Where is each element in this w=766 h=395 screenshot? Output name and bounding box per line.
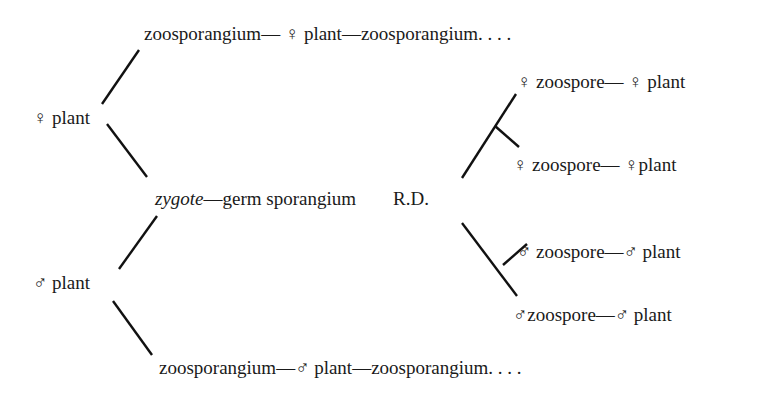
zygote-row: zygote—germ sporangium bbox=[155, 189, 356, 208]
line-female-to-zygote bbox=[107, 124, 147, 177]
female-plant-label: ♀ plant bbox=[33, 108, 90, 127]
connector-lines bbox=[0, 0, 766, 395]
product-male-zoospore-1: ♂ zoospore—♂ plant bbox=[517, 242, 681, 261]
germ-sporangium-label: —germ sporangium bbox=[204, 188, 357, 209]
product-female-zoospore-1: ♀ zoospore— ♀ plant bbox=[517, 72, 685, 91]
male-lower-cycle: zoosporangium—♂ plant—zoosporangium. . .… bbox=[159, 358, 522, 377]
product-female-zoospore-2: ♀ zoospore— ♀plant bbox=[513, 155, 677, 174]
female-upper-cycle: zoosporangium— ♀ plant—zoosporangium. . … bbox=[144, 24, 511, 43]
line-rd-upper-branch bbox=[495, 126, 519, 147]
male-plant-label: ♂ plant bbox=[33, 273, 90, 292]
line-female-to-zoosporangium bbox=[102, 50, 139, 104]
line-male-to-zoosporangium bbox=[113, 301, 152, 355]
zygote-label: zygote bbox=[155, 188, 204, 209]
product-male-zoospore-2: ♂zoospore—♂ plant bbox=[513, 305, 672, 324]
reduction-division-label: R.D. bbox=[393, 189, 429, 208]
line-male-to-zygote bbox=[119, 216, 157, 269]
